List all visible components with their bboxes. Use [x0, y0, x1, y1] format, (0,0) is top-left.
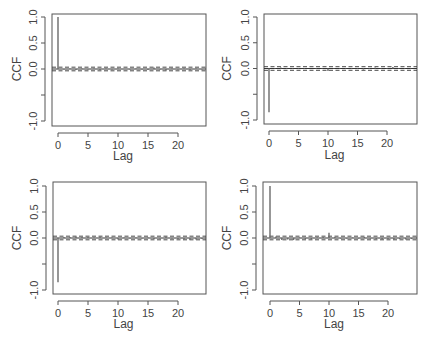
x-tick-label: 20	[172, 139, 184, 151]
x-axis-title: Lag	[324, 317, 344, 331]
x-tick-label: 5	[85, 307, 91, 319]
y-tick-label: 0.5	[27, 35, 39, 50]
y-tick-label: -1.0	[239, 111, 251, 130]
ccf-figure: -1.00.00.51.005101520CCFLag-1.00.00.51.0…	[0, 0, 429, 345]
x-tick-label: 0	[55, 307, 61, 319]
y-axis-title: CCF	[220, 226, 234, 251]
x-tick-label: 20	[382, 307, 394, 319]
x-tick-label: 15	[142, 307, 154, 319]
y-tick-label: 0.0	[28, 230, 40, 245]
y-tick-label: -1.0	[27, 112, 39, 131]
x-axis-title: Lag	[113, 149, 133, 163]
y-tick-label: 1.0	[239, 9, 251, 24]
y-tick-label: 0.5	[239, 35, 251, 50]
plot-frame	[52, 14, 206, 126]
y-axis-title: CCF	[10, 57, 24, 82]
y-tick-label: 0.5	[238, 204, 250, 219]
x-axis-title: Lag	[113, 317, 133, 331]
ccf-panel-bottom-right: -1.00.00.51.005101520CCFLag	[220, 178, 417, 331]
y-tick-label: 1.0	[27, 9, 39, 24]
ccf-panel-top-left: -1.00.00.51.005101520CCFLag	[10, 9, 206, 163]
x-tick-label: 0	[266, 137, 272, 149]
y-tick-label: 1.0	[28, 178, 40, 193]
x-tick-label: 20	[381, 137, 393, 149]
y-tick-label: 1.0	[238, 178, 250, 193]
x-tick-label: 5	[85, 139, 91, 151]
y-axis-title: CCF	[220, 56, 234, 81]
x-tick-label: 15	[142, 139, 154, 151]
x-axis-title: Lag	[324, 148, 344, 162]
x-tick-label: 15	[352, 307, 364, 319]
x-tick-label: 0	[267, 307, 273, 319]
y-tick-label: -1.0	[28, 281, 40, 300]
ccf-panel-bottom-left: -1.00.00.51.005101520CCFLag	[10, 178, 206, 331]
y-tick-label: 0.5	[28, 204, 40, 219]
x-tick-label: 5	[296, 307, 302, 319]
y-tick-label: 0.0	[239, 61, 251, 76]
x-tick-label: 20	[172, 307, 184, 319]
x-tick-label: 5	[295, 137, 301, 149]
ccf-panel-top-right: -1.00.00.51.005101520CCFLag	[220, 9, 417, 162]
x-tick-label: 0	[55, 139, 61, 151]
y-axis-title: CCF	[10, 226, 24, 251]
x-tick-label: 15	[351, 137, 363, 149]
y-tick-label: 0.0	[238, 230, 250, 245]
y-tick-label: 0.0	[27, 61, 39, 76]
y-tick-label: -1.0	[238, 281, 250, 300]
